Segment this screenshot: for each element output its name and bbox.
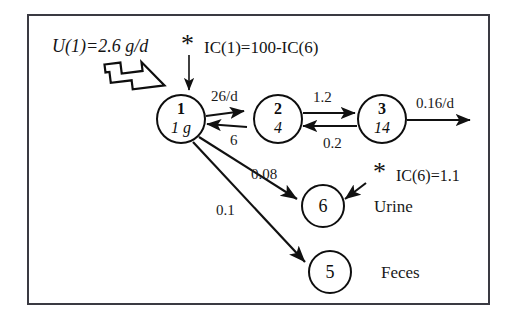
- organ-label-urine: Urine: [374, 198, 413, 215]
- node-label-2-number: 2: [258, 101, 298, 117]
- ic1-label: IC(1)=100-IC(6): [204, 39, 318, 56]
- node-label-1-mass: 1 g: [161, 120, 201, 136]
- node-label-3-number: 3: [362, 101, 402, 117]
- rate-label-k32: 0.2: [323, 136, 342, 151]
- ic6-label: IC(6)=1.1: [396, 168, 460, 184]
- rate-label-k21: 6: [230, 133, 238, 148]
- rate-label-k3-out: 0.16/d: [416, 96, 454, 111]
- node-label-1-number: 1: [161, 101, 201, 117]
- diagram-canvas: U(1)=2.6 g/d * IC(1)=100-IC(6) 1 1 g 2 4…: [0, 0, 515, 323]
- rate-label-k12: 26/d: [211, 89, 238, 104]
- node-label-5-number: 5: [310, 263, 350, 281]
- diagram-frame: [27, 14, 490, 305]
- rate-label-k15: 0.1: [216, 203, 235, 218]
- node-label-3-mass: 14: [362, 120, 402, 136]
- asterisk-ic6: *: [373, 159, 386, 185]
- asterisk-ic1: *: [181, 31, 194, 57]
- rate-label-k16: 0.08: [251, 167, 277, 182]
- node-label-2-mass: 4: [258, 120, 298, 136]
- input-label-u1: U(1)=2.6 g/d: [52, 37, 148, 55]
- node-label-6-number: 6: [303, 197, 343, 215]
- organ-label-feces: Feces: [381, 264, 420, 281]
- rate-label-k23: 1.2: [313, 90, 332, 105]
